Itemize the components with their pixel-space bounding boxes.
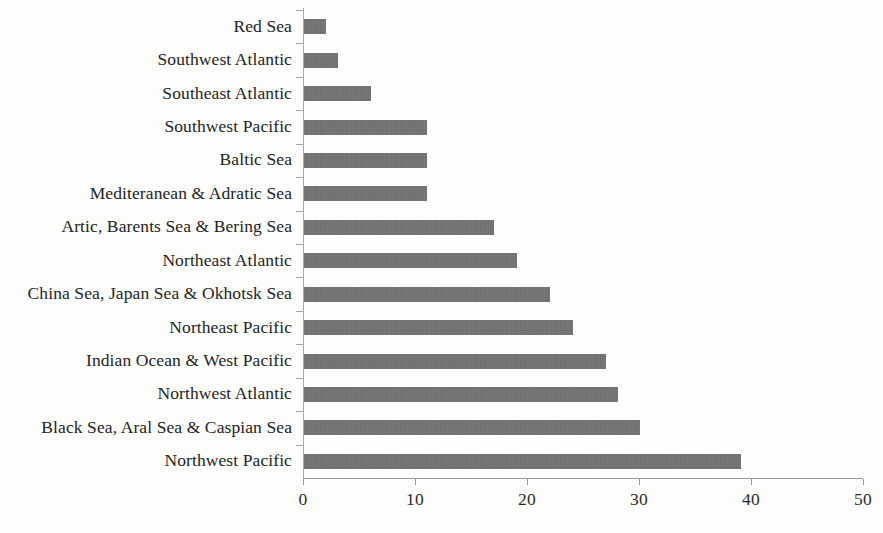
bar xyxy=(304,53,338,68)
category-label: China Sea, Japan Sea & Okhotsk Sea xyxy=(28,285,292,303)
x-axis-tick-label: 50 xyxy=(854,489,872,510)
category-label: Northwest Pacific xyxy=(164,452,292,470)
x-axis-tick-label: 20 xyxy=(518,489,536,510)
y-axis-tick xyxy=(296,177,303,178)
category-label: Artic, Barents Sea & Bering Sea xyxy=(61,218,292,236)
bar xyxy=(304,220,494,235)
x-axis-tick-label: 30 xyxy=(630,489,648,510)
x-axis-tick xyxy=(415,479,416,485)
y-axis-tick xyxy=(296,144,303,145)
category-label: Southwest Pacific xyxy=(164,118,292,136)
y-axis-tick xyxy=(296,10,303,11)
bar xyxy=(304,420,640,435)
x-axis-tick xyxy=(751,479,752,485)
bar xyxy=(304,86,371,101)
x-axis-tick-label: 10 xyxy=(406,489,424,510)
y-axis-tick xyxy=(296,378,303,379)
x-axis-tick xyxy=(863,479,864,485)
y-axis-tick xyxy=(296,244,303,245)
x-axis-tick xyxy=(527,479,528,485)
y-axis-tick xyxy=(296,344,303,345)
y-axis-tick xyxy=(296,445,303,446)
category-label: Northeast Pacific xyxy=(169,319,292,337)
y-axis-line xyxy=(303,8,304,479)
x-axis-tick-label: 0 xyxy=(299,489,308,510)
bar xyxy=(304,454,741,469)
y-axis-tick xyxy=(296,110,303,111)
y-axis-tick xyxy=(296,77,303,78)
x-axis-line xyxy=(303,478,863,479)
bar xyxy=(304,387,618,402)
category-label: Southwest Atlantic xyxy=(157,51,292,69)
category-label: Northwest Atlantic xyxy=(158,385,293,403)
bar-chart: 01020304050 Red SeaSouthwest AtlanticSou… xyxy=(0,0,883,533)
category-label: Black Sea, Aral Sea & Caspian Sea xyxy=(41,419,292,437)
x-axis-tick xyxy=(303,479,304,485)
bar xyxy=(304,320,573,335)
category-label: Southeast Atlantic xyxy=(162,85,292,103)
category-label: Baltic Sea xyxy=(220,151,292,169)
bar xyxy=(304,186,427,201)
bar xyxy=(304,253,517,268)
category-label: Mediteranean & Adratic Sea xyxy=(90,185,292,203)
bar xyxy=(304,287,550,302)
bar xyxy=(304,153,427,168)
y-axis-tick xyxy=(296,211,303,212)
x-axis-tick-label: 40 xyxy=(742,489,760,510)
category-label: Northeast Atlantic xyxy=(162,252,292,270)
x-axis-tick xyxy=(639,479,640,485)
bar xyxy=(304,120,427,135)
bar xyxy=(304,354,606,369)
y-axis-tick xyxy=(296,311,303,312)
y-axis-tick xyxy=(296,43,303,44)
bar xyxy=(304,19,326,34)
y-axis-tick xyxy=(296,411,303,412)
category-label: Indian Ocean & West Pacific xyxy=(86,352,292,370)
y-axis-tick xyxy=(296,277,303,278)
category-label: Red Sea xyxy=(233,18,292,36)
